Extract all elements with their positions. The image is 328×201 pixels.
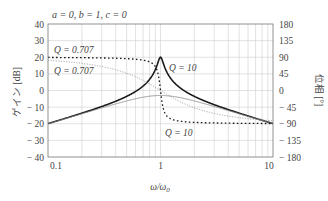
bode-plot: 403020100− 10− 20− 30− 4018013590450− 45… (0, 0, 328, 201)
y-tick-left: 10 (35, 69, 45, 79)
label-q707-upper: Q = 0.707 (54, 45, 95, 55)
y-tick-left: − 20 (27, 119, 44, 129)
y-tick-right: − 45 (279, 103, 296, 113)
x-tick: 1 (158, 161, 163, 171)
y-tick-right: − 180 (279, 153, 301, 163)
y-tick-right: − 135 (279, 136, 301, 146)
y-tick-right: − 90 (279, 119, 296, 129)
y-tick-left: − 10 (27, 103, 44, 113)
x-axis-label: ω/ω0 (150, 182, 170, 194)
y-tick-right: 45 (279, 69, 289, 79)
y-tick-left: 30 (35, 36, 45, 46)
y-tick-left: − 30 (27, 136, 44, 146)
grid-lines (48, 24, 273, 157)
x-tick: 10 (264, 161, 274, 171)
label-q10-gain: Q = 10 (169, 63, 197, 73)
y-tick-left: 20 (35, 53, 45, 63)
chart-title: a = 0, b = 1, c = 0 (52, 9, 127, 20)
y-axis-right-label: 位相 [°] (314, 74, 325, 107)
label-q707-lower: Q = 0.707 (54, 66, 95, 76)
y-tick-right: 90 (279, 53, 289, 63)
y-axis-left-label: ゲイン [dB] (11, 67, 22, 117)
y-tick-right: 135 (279, 36, 294, 46)
x-tick: 0.1 (50, 161, 62, 171)
y-tick-right: 0 (279, 86, 284, 96)
y-tick-left: 40 (35, 20, 45, 30)
y-tick-right: 180 (279, 20, 294, 30)
y-tick-left: − 40 (27, 153, 44, 163)
label-q10-phase: Q = 10 (165, 128, 193, 138)
y-tick-left: 0 (39, 86, 44, 96)
